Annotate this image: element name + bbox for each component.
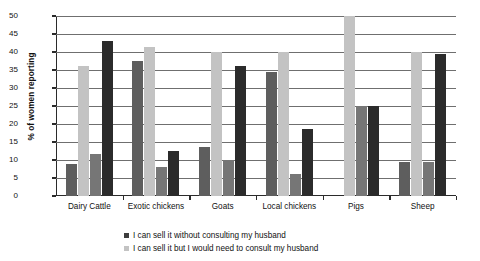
bar: [211, 52, 222, 196]
bar: [290, 174, 301, 196]
bar: [235, 66, 246, 196]
bar-group: [56, 16, 123, 196]
legend-label: I can sell it but I would need to consul…: [133, 244, 318, 253]
plot-area: [56, 16, 456, 196]
bar: [278, 52, 289, 196]
y-axis-tick-label: 25: [0, 102, 18, 110]
y-axis-title: % of women reporting: [27, 12, 36, 182]
y-axis-tick-label: 40: [0, 48, 18, 56]
y-axis-tick-label: 30: [0, 84, 18, 92]
y-axis-tick-label: 45: [0, 30, 18, 38]
chart-legend: I can sell it without consulting my husb…: [124, 229, 404, 255]
bar-group: [256, 16, 323, 196]
x-axis-tick-mark: [256, 196, 257, 200]
bar: [144, 47, 155, 196]
bar-chart-figure: % of women reporting 0510152025303540455…: [0, 0, 480, 261]
bar-group: [123, 16, 190, 196]
x-axis-tick-mark: [389, 196, 390, 200]
y-axis-tick-label: 15: [0, 138, 18, 146]
bar-groups: [56, 16, 456, 196]
bar: [356, 106, 367, 196]
bar-group: [189, 16, 256, 196]
bar: [199, 147, 210, 196]
x-axis-category-label: Sheep: [363, 202, 480, 211]
bar-group: [389, 16, 456, 196]
x-axis-tick-mark: [123, 196, 124, 200]
legend-swatch-icon: [124, 246, 129, 251]
legend-swatch-icon: [124, 233, 129, 238]
bar: [435, 54, 446, 196]
bar: [168, 151, 179, 196]
bar: [423, 162, 434, 196]
bar: [66, 164, 77, 196]
bar: [223, 160, 234, 196]
bar: [132, 61, 143, 196]
x-axis-tick-mark: [323, 196, 324, 200]
bar: [90, 154, 101, 196]
legend-item[interactable]: I can sell it but I would need to consul…: [124, 242, 404, 255]
y-axis-tick-label: 35: [0, 66, 18, 74]
bar: [302, 129, 313, 196]
y-axis-tick-label: 5: [0, 174, 18, 182]
bar: [266, 72, 277, 196]
y-axis-tick-label: 10: [0, 156, 18, 164]
x-axis-tick-mark: [456, 196, 457, 200]
y-axis-tick-label: 0: [0, 192, 18, 200]
legend-label: I can sell it without consulting my husb…: [133, 231, 286, 240]
bar: [156, 167, 167, 196]
legend-item[interactable]: I can sell it without consulting my husb…: [124, 229, 404, 242]
bar: [368, 106, 379, 196]
bar: [78, 66, 89, 196]
y-axis-tick-label: 50: [0, 12, 18, 20]
bar: [102, 41, 113, 196]
bar: [344, 16, 355, 196]
bar: [399, 162, 410, 196]
y-axis-tick-label: 20: [0, 120, 18, 128]
x-axis-tick-mark: [189, 196, 190, 200]
bar-group: [323, 16, 390, 196]
bar: [411, 52, 422, 196]
